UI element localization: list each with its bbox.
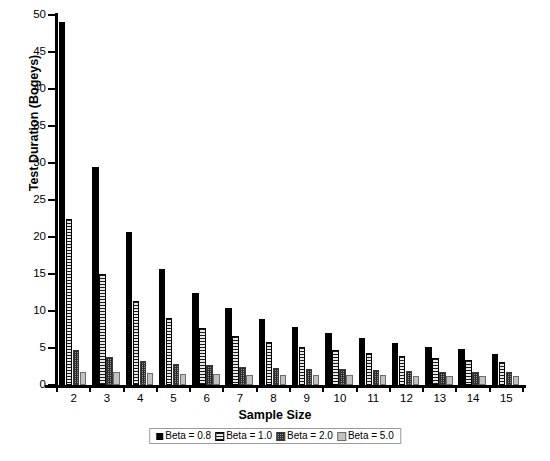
bar [392, 343, 398, 385]
legend-entry: Beta = 5.0 [335, 431, 396, 441]
x-tick-mark [123, 385, 125, 392]
bar [59, 22, 65, 385]
bar [280, 375, 286, 385]
y-tick-mark [48, 236, 57, 238]
bar [339, 369, 345, 385]
y-tick-label: 30 [0, 157, 46, 169]
legend-swatch-icon [156, 433, 163, 440]
bar [99, 274, 105, 385]
bar [66, 219, 72, 385]
legend-entry: Beta = 2.0 [274, 431, 335, 441]
x-tick-mark [356, 385, 358, 392]
x-axis-title: Sample Size [0, 408, 550, 422]
y-tick-mark [48, 310, 57, 312]
x-tick-mark [522, 385, 524, 392]
bar [166, 318, 172, 385]
bar [439, 372, 445, 385]
bar [126, 232, 132, 385]
y-tick-label: 45 [0, 46, 46, 58]
x-tick-mark [289, 385, 291, 392]
bar [332, 350, 338, 385]
bar [266, 342, 272, 385]
bar [313, 375, 319, 385]
legend-swatch-icon [337, 432, 346, 441]
bar [180, 374, 186, 385]
legend-label: Beta = 5.0 [348, 431, 394, 441]
bar [366, 353, 372, 385]
y-tick-label: 25 [0, 194, 46, 206]
y-tick-label: 40 [0, 83, 46, 95]
bar [472, 372, 478, 385]
bar [380, 375, 386, 385]
bar [133, 301, 139, 385]
bar [373, 370, 379, 385]
bar [292, 327, 298, 385]
y-tick-label: 10 [0, 305, 46, 317]
bar [239, 367, 245, 386]
y-tick-mark [48, 51, 57, 53]
y-tick-mark [48, 162, 57, 164]
bar [273, 368, 279, 385]
bar [479, 376, 485, 385]
x-tick-mark [455, 385, 457, 392]
bar [147, 373, 153, 385]
bar [199, 328, 205, 385]
bar [346, 375, 352, 385]
y-tick-mark [48, 273, 57, 275]
x-tick-mark [489, 385, 491, 392]
bar [92, 167, 98, 385]
y-tick-label: 35 [0, 120, 46, 132]
bar [465, 360, 471, 385]
bar [513, 376, 519, 385]
bar [299, 347, 305, 385]
bar [499, 362, 505, 385]
x-axis-line [45, 385, 526, 388]
x-tick-mark [156, 385, 158, 392]
bar [106, 357, 112, 385]
bar [413, 376, 419, 385]
bar [406, 371, 412, 385]
bar [458, 349, 464, 385]
bar-chart: Test Duration (Bogeys) 05101520253035404… [0, 0, 550, 461]
y-tick-label: 15 [0, 268, 46, 280]
x-tick-mark [389, 385, 391, 392]
x-tick-label: 15 [486, 393, 526, 405]
bar [399, 356, 405, 385]
bar [425, 347, 431, 385]
y-tick-mark [48, 88, 57, 90]
bar [73, 350, 79, 385]
y-tick-mark [48, 125, 57, 127]
legend-label: Beta = 2.0 [287, 431, 333, 441]
legend-swatch-icon [276, 432, 285, 441]
y-tick-mark [48, 199, 57, 201]
bar [506, 372, 512, 385]
bar [113, 372, 119, 385]
legend-label: Beta = 0.8 [165, 431, 211, 441]
y-tick-mark [48, 14, 57, 16]
legend-label: Beta = 1.0 [226, 431, 272, 441]
bar [173, 364, 179, 385]
x-tick-mark [189, 385, 191, 392]
bar [432, 358, 438, 385]
bar [259, 319, 265, 385]
y-tick-label: 20 [0, 231, 46, 243]
y-tick-label: 50 [0, 9, 46, 21]
bar [192, 293, 198, 386]
legend-entry: Beta = 1.0 [213, 431, 274, 441]
bar [246, 375, 252, 385]
plot-area [57, 15, 523, 385]
bar [492, 354, 498, 385]
y-tick-label: 0 [0, 379, 46, 391]
bar [80, 372, 86, 385]
x-tick-mark [322, 385, 324, 392]
y-tick-mark [48, 347, 57, 349]
bar [306, 369, 312, 385]
legend-swatch-icon [215, 432, 224, 441]
chart-legend: Beta = 0.8Beta = 1.0Beta = 2.0Beta = 5.0 [149, 428, 401, 444]
bar [325, 333, 331, 385]
x-tick-mark [56, 385, 58, 392]
bar [140, 361, 146, 385]
bar [213, 374, 219, 385]
bar [206, 365, 212, 385]
bar [232, 336, 238, 385]
